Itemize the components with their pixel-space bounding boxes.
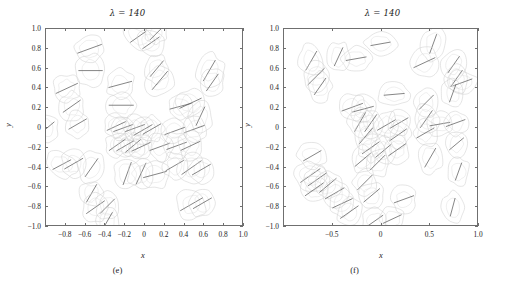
y-tick-mark xyxy=(475,206,478,207)
contour-blob xyxy=(189,189,216,216)
x-tick-mark xyxy=(144,28,145,31)
x-tick-mark xyxy=(429,28,430,31)
contour-outer xyxy=(446,132,468,158)
x-tick-label: 0.6 xyxy=(199,230,208,239)
contour-blob xyxy=(308,70,332,103)
contour-outer xyxy=(420,29,446,62)
contour-blob xyxy=(65,110,88,139)
x-tick-mark xyxy=(65,28,66,31)
dipole-marker xyxy=(390,118,408,128)
contour-inner xyxy=(452,163,466,180)
x-tick-mark xyxy=(144,223,145,226)
contour-blob xyxy=(390,185,415,214)
dipole-marker xyxy=(78,44,102,53)
x-tick-label: −0.2 xyxy=(117,230,130,239)
y-tick-mark xyxy=(475,167,478,168)
contour-blob xyxy=(363,31,398,56)
x-tick-label: −0.8 xyxy=(58,230,71,239)
y-tick-label: 0.6 xyxy=(13,63,41,72)
contour-blob xyxy=(175,88,204,118)
y-axis-label-f: y xyxy=(242,123,252,127)
x-axis-label-e: x xyxy=(141,250,145,260)
y-tick-label: 0.8 xyxy=(13,43,41,52)
dipole-marker xyxy=(193,198,211,208)
x-tick-mark xyxy=(203,28,204,31)
y-tick-mark xyxy=(45,127,48,128)
dipole-marker xyxy=(132,143,150,152)
y-tick-label: −0.8 xyxy=(13,202,41,211)
y-tick-mark xyxy=(475,186,478,187)
contour-blob xyxy=(379,207,404,226)
x-tick-mark xyxy=(104,28,105,31)
dipole-marker xyxy=(150,61,163,76)
x-tick-mark xyxy=(164,28,165,31)
dipole-marker xyxy=(85,159,98,177)
contour-outer xyxy=(114,159,141,188)
dipole-marker xyxy=(419,95,433,109)
x-tick-label: 0.8 xyxy=(219,230,228,239)
dipole-marker xyxy=(450,198,455,216)
contour-blob xyxy=(337,197,362,226)
y-tick-mark xyxy=(240,127,243,128)
x-tick-mark xyxy=(478,28,479,31)
contour-blob xyxy=(327,42,350,70)
x-tick-mark xyxy=(243,223,244,226)
x-tick-label: 0 xyxy=(379,230,383,239)
contour-blob xyxy=(46,115,58,143)
x-tick-mark xyxy=(184,223,185,226)
y-tick-mark xyxy=(45,186,48,187)
x-tick-mark xyxy=(203,223,204,226)
contour-blob xyxy=(114,159,141,188)
y-tick-mark xyxy=(240,167,243,168)
y-tick-mark xyxy=(283,28,286,29)
contour-blob xyxy=(178,131,201,162)
x-tick-mark xyxy=(429,223,430,226)
y-tick-mark xyxy=(475,48,478,49)
contour-blob xyxy=(418,143,442,175)
y-tick-mark xyxy=(240,107,243,108)
contour-outer xyxy=(363,207,386,226)
x-tick-mark xyxy=(243,28,244,31)
subplot-caption-f: (f) xyxy=(227,265,482,275)
y-tick-mark xyxy=(283,167,286,168)
y-axis-label-e: y xyxy=(3,123,13,127)
y-tick-label: 0.6 xyxy=(251,63,279,72)
figure-container: λ = 140 −1.0−0.8−0.6−0.4−0.200.20.40.60.… xyxy=(0,0,510,297)
dipole-marker xyxy=(192,164,210,174)
dipole-marker xyxy=(364,189,380,202)
contour-inner xyxy=(111,75,129,94)
y-tick-mark xyxy=(240,186,243,187)
contour-outer xyxy=(379,207,404,226)
contour-blob xyxy=(304,60,329,92)
y-tick-label: 0.8 xyxy=(251,43,279,52)
contour-blob xyxy=(378,82,410,106)
y-tick-label: −1.0 xyxy=(251,222,279,231)
y-tick-mark xyxy=(475,226,478,227)
x-tick-label: 0 xyxy=(142,230,146,239)
y-tick-mark xyxy=(475,87,478,88)
contour-blob xyxy=(415,104,440,133)
y-tick-mark xyxy=(240,206,243,207)
y-tick-mark xyxy=(45,226,48,227)
dipole-marker xyxy=(69,119,87,129)
x-tick-label: 1.0 xyxy=(473,230,482,239)
dipole-marker xyxy=(143,124,161,134)
y-tick-mark xyxy=(283,48,286,49)
contour-inner xyxy=(356,152,372,169)
contour-blob xyxy=(163,133,190,160)
y-tick-mark xyxy=(45,107,48,108)
y-tick-label: −0.8 xyxy=(251,202,279,211)
y-tick-mark xyxy=(45,206,48,207)
y-tick-label: 0 xyxy=(251,123,279,132)
x-tick-mark xyxy=(332,223,333,226)
x-tick-mark xyxy=(104,223,105,226)
y-tick-label: 0.2 xyxy=(251,103,279,112)
lambda-symbol-e: λ = 140 xyxy=(110,8,146,18)
x-tick-mark xyxy=(184,28,185,31)
y-tick-mark xyxy=(475,107,478,108)
y-tick-mark xyxy=(283,186,286,187)
plot-area-f xyxy=(283,28,478,226)
dipole-marker xyxy=(341,206,359,218)
contour-outer xyxy=(107,67,135,99)
dipole-marker xyxy=(180,98,201,108)
